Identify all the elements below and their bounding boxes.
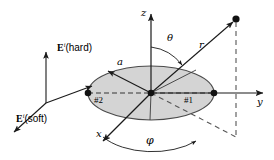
observation-point-marker: [232, 15, 239, 22]
axis-label-y: y: [257, 97, 263, 107]
axis-label-z: z: [141, 8, 146, 18]
incident-field-soft-label: Ei(soft): [16, 113, 47, 124]
incident-hard-symbol: E: [57, 42, 64, 53]
origin-marker: [148, 90, 155, 97]
axis-label-x: x: [96, 129, 102, 139]
point1-marker: [211, 90, 218, 97]
incident-soft-qualifier: (soft): [24, 113, 47, 124]
point2-marker: [85, 90, 92, 97]
figure-canvas: z y x θ φ r a #1 #2 Ei(hard) Ei(soft): [0, 0, 274, 160]
incident-hard-qualifier: (hard): [65, 42, 92, 53]
incident-soft-symbol: E: [16, 113, 23, 124]
incident-field-hard-label: Ei(hard): [57, 42, 92, 53]
vector-label-a: a: [117, 57, 123, 67]
diagram-vector-graphics: [0, 0, 274, 160]
disk-point1-label: #1: [184, 96, 193, 105]
angle-label-phi: φ: [146, 135, 154, 146]
disk-point2-label: #2: [94, 96, 103, 105]
theta-arc: [151, 47, 182, 65]
vector-label-r: r: [199, 40, 204, 50]
angle-label-theta: θ: [167, 33, 173, 43]
